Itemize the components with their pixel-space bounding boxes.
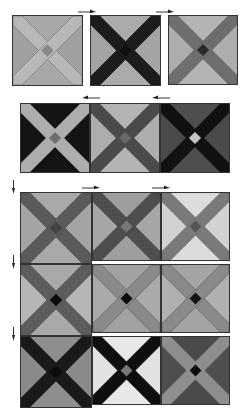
arrow-right-icon [152, 185, 170, 190]
arrow-down-icon [11, 327, 16, 341]
row1-block-2 [90, 15, 161, 86]
arrow-left-icon [152, 95, 170, 100]
arrow-down-icon [11, 255, 16, 269]
quilt-block-art [21, 265, 91, 335]
quilt-block-art [162, 193, 229, 260]
quilt-block-art [93, 337, 160, 404]
grid-block-9 [161, 336, 230, 405]
grid-block-6 [161, 264, 230, 333]
arrow-right-icon [156, 9, 174, 14]
arrow-right-icon [82, 185, 100, 190]
arrow-left-icon [82, 95, 100, 100]
quilt-block-art [93, 265, 160, 332]
row1-block-3 [168, 15, 238, 85]
quilt-block-art [162, 265, 229, 332]
grid-block-7 [20, 336, 92, 408]
row2-block-1 [20, 103, 90, 173]
quilt-block-art [21, 193, 91, 263]
row1-block-1 [12, 15, 83, 86]
grid-block-4 [20, 264, 92, 336]
grid-block-8 [92, 336, 161, 405]
quilt-block-art [91, 16, 160, 85]
quilt-block-art [13, 16, 82, 85]
quilt-block-art [93, 193, 160, 260]
quilt-block-art [21, 337, 91, 407]
grid-block-5 [92, 264, 161, 333]
arrow-right-icon [78, 9, 96, 14]
grid-block-2 [92, 192, 161, 261]
grid-block-1 [20, 192, 92, 264]
quilt-block-art [169, 16, 237, 84]
arrow-down-icon [11, 180, 16, 194]
quilt-block-art [91, 104, 159, 172]
grid-block-3 [161, 192, 230, 261]
quilt-block-art [162, 337, 229, 404]
quilt-block-art [21, 104, 89, 172]
row2-block-2 [90, 103, 160, 173]
quilt-block-art [161, 104, 229, 172]
row2-block-3 [160, 103, 230, 173]
